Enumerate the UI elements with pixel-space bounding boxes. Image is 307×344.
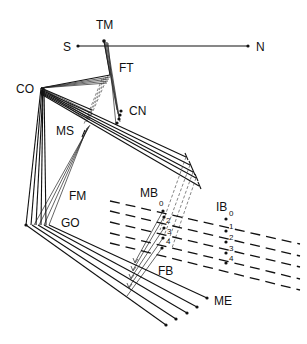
- ib-index-0: 0: [229, 209, 234, 218]
- ib-points: [224, 217, 227, 264]
- diagram-canvas: TM S N FT CO CN MS FM GO MB IB FB ME 0 2…: [0, 0, 307, 344]
- label-tm: TM: [96, 18, 113, 32]
- go-me-lines: [26, 225, 209, 327]
- label-s: S: [63, 40, 71, 54]
- label-cn: CN: [129, 104, 146, 118]
- sn-axis: [76, 39, 249, 47]
- label-n: N: [256, 40, 265, 54]
- label-fm: FM: [69, 189, 86, 203]
- label-ms: MS: [56, 124, 74, 138]
- label-me: ME: [214, 294, 232, 308]
- diagram-figure: TM S N FT CO CN MS FM GO MB IB FB ME 0 2…: [0, 0, 307, 344]
- label-fb: FB: [158, 264, 173, 278]
- ib-index-2: 2: [229, 233, 234, 242]
- label-ib: IB: [216, 200, 227, 214]
- occlusal-dashed-lines: [110, 201, 300, 290]
- label-ft: FT: [119, 61, 134, 75]
- fb-lines: [127, 211, 164, 296]
- ib-index-3: 3: [229, 244, 234, 253]
- co-go-lines: [24, 88, 46, 227]
- mb-index-4: 4: [166, 237, 171, 246]
- label-mb: MB: [140, 186, 158, 200]
- ib-index-4: 4: [229, 254, 234, 263]
- ib-index-1: 1: [229, 222, 234, 231]
- mb-index-3: 3: [167, 227, 172, 236]
- label-co: CO: [16, 82, 34, 96]
- mb-index-2: 2: [166, 216, 171, 225]
- co-ft-lines: [41, 75, 110, 88]
- label-go: GO: [61, 216, 80, 230]
- mb-index-0: 0: [159, 199, 164, 208]
